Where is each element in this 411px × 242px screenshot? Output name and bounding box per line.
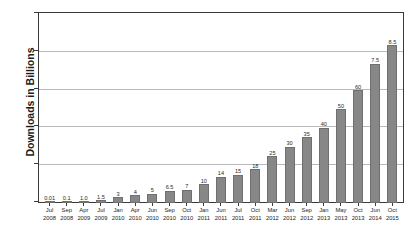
x-axis-label-month: Jul — [92, 206, 109, 214]
bar-value-label: 1.5 — [97, 194, 105, 200]
x-axis-label-year: 2008 — [41, 214, 58, 222]
bar-column[interactable]: 30 — [281, 12, 298, 203]
x-axis-label: Oct2010 — [178, 206, 195, 236]
bar[interactable] — [165, 191, 175, 203]
bar[interactable] — [199, 184, 209, 203]
x-axis-label-year: 2012 — [281, 214, 298, 222]
x-axis-label-year: 2015 — [384, 214, 401, 222]
x-axis-label-month: Mar — [264, 206, 281, 214]
bar-column[interactable]: 60 — [350, 12, 367, 203]
x-axis-label-month: Sep — [161, 206, 178, 214]
bar[interactable] — [336, 109, 346, 203]
x-axis-label-month: Oct — [384, 206, 401, 214]
bar-value-label: 3 — [117, 191, 120, 197]
x-axis-label: Sep2008 — [58, 206, 75, 236]
x-axis-label-year: 2012 — [264, 214, 281, 222]
x-axis-label: Jun2012 — [281, 206, 298, 236]
x-axis-labels: Jul2008Sep2008Apr2009Jul2009Jan2010Apr20… — [38, 206, 404, 236]
bar[interactable] — [387, 45, 397, 203]
x-axis-label-month: Jan — [110, 206, 127, 214]
x-axis-label-year: 2010 — [110, 214, 127, 222]
bar-column[interactable]: 1.0 — [75, 12, 92, 203]
bar-column[interactable]: 25 — [264, 12, 281, 203]
bar-value-label: 30 — [286, 140, 292, 146]
x-axis-label: Apr2010 — [127, 206, 144, 236]
bar-column[interactable]: 14 — [212, 12, 229, 203]
bar-value-label: 7 — [185, 183, 188, 189]
bar-column[interactable]: 3 — [110, 12, 127, 203]
x-axis-label-month: Jul — [230, 206, 247, 214]
x-axis-label: Jun2014 — [367, 206, 384, 236]
chart-watermark — [150, 0, 380, 10]
x-axis-label: Jun2010 — [144, 206, 161, 236]
x-axis-label-month: Jan — [315, 206, 332, 214]
bar-value-label: 40 — [321, 121, 327, 127]
x-axis-label-year: 2013 — [350, 214, 367, 222]
bar-value-label: 8.5 — [388, 39, 396, 45]
bar-value-label: 4 — [134, 189, 137, 195]
x-axis-label-year: 2011 — [230, 214, 247, 222]
bar[interactable] — [370, 64, 380, 203]
bar[interactable] — [267, 156, 277, 203]
bar-column[interactable]: 1.5 — [92, 12, 109, 203]
x-axis-label: Jul2011 — [230, 206, 247, 236]
bar-chart: Downloads in Billions 020406080100 0.010… — [0, 0, 411, 242]
bar-column[interactable]: 4 — [127, 12, 144, 203]
x-axis-label-month: May — [332, 206, 349, 214]
x-axis-label: Mar2012 — [264, 206, 281, 236]
x-axis-label-year: 2010 — [178, 214, 195, 222]
bar-column[interactable]: 18 — [247, 12, 264, 203]
x-axis-label-year: 2008 — [58, 214, 75, 222]
bar[interactable] — [319, 128, 329, 203]
x-axis-label: Jan2010 — [110, 206, 127, 236]
bar[interactable] — [233, 175, 243, 203]
y-axis-title: Downloads in Billions — [24, 17, 36, 187]
bar-value-label: 60 — [355, 84, 361, 90]
x-axis-label-month: Jun — [367, 206, 384, 214]
bar-column[interactable]: 40 — [315, 12, 332, 203]
x-axis-label: Jul2009 — [92, 206, 109, 236]
bar-column[interactable]: 0.1 — [58, 12, 75, 203]
bar-column[interactable]: 8.5 — [384, 12, 401, 203]
bar-value-label: 50 — [338, 103, 344, 109]
x-axis-label-month: Sep — [58, 206, 75, 214]
bar[interactable] — [130, 195, 140, 203]
bar-value-label: 18 — [252, 163, 258, 169]
bar[interactable] — [216, 177, 226, 203]
bar[interactable] — [182, 190, 192, 203]
bar-column[interactable]: 5 — [144, 12, 161, 203]
x-axis-label: Oct2015 — [384, 206, 401, 236]
bar-value-label: 0.01 — [44, 195, 55, 201]
bar-column[interactable]: 10 — [195, 12, 212, 203]
x-axis-label-year: 2014 — [367, 214, 384, 222]
x-axis-label-month: Jan — [195, 206, 212, 214]
bar-column[interactable]: 7.5 — [367, 12, 384, 203]
bar[interactable] — [250, 169, 260, 203]
bar-value-label: 0.1 — [63, 195, 71, 201]
bar-column[interactable]: 0.01 — [41, 12, 58, 203]
bar[interactable] — [147, 194, 157, 203]
bar-column[interactable]: 7 — [178, 12, 195, 203]
x-axis-label: Jan2013 — [315, 206, 332, 236]
x-axis-label: Jul2008 — [41, 206, 58, 236]
bar[interactable] — [285, 147, 295, 203]
x-axis-label: Jan2011 — [195, 206, 212, 236]
x-axis-label-month: Jun — [144, 206, 161, 214]
bar[interactable] — [302, 137, 312, 203]
x-axis-label: Sep2012 — [298, 206, 315, 236]
bar[interactable] — [353, 90, 363, 203]
x-axis-label-month: Jun — [212, 206, 229, 214]
x-axis-label: Jun2011 — [212, 206, 229, 236]
bar-column[interactable]: 6.5 — [161, 12, 178, 203]
x-axis-label: May2013 — [332, 206, 349, 236]
x-axis-label-year: 2011 — [195, 214, 212, 222]
bar-value-label: 14 — [218, 170, 224, 176]
bar-column[interactable]: 15 — [230, 12, 247, 203]
bar-column[interactable]: 35 — [298, 12, 315, 203]
x-axis-label: Oct2011 — [247, 206, 264, 236]
bar-column[interactable]: 50 — [332, 12, 349, 203]
x-axis-label-year: 2010 — [127, 214, 144, 222]
bar-value-label: 1.0 — [80, 195, 88, 201]
bar-value-label: 35 — [304, 131, 310, 137]
x-axis-label-year: 2009 — [75, 214, 92, 222]
